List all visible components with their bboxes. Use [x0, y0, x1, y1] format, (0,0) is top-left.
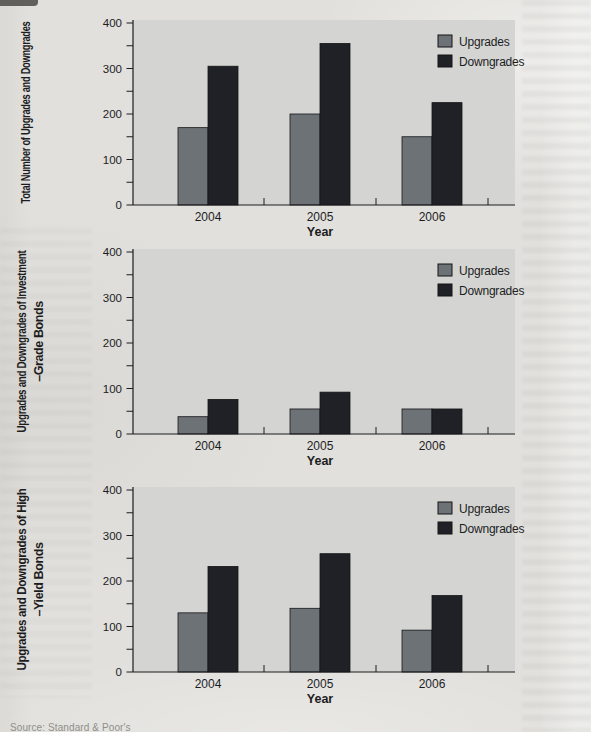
bar-upgrades-2005	[290, 114, 320, 205]
bar-downgrades-2006	[432, 596, 462, 672]
bar-upgrades-2005	[290, 608, 320, 672]
bar-upgrades-2006	[402, 137, 432, 205]
bar-downgrades-2004	[208, 66, 238, 205]
x-tick-label: 2004	[195, 677, 222, 691]
legend-swatch-upgrades	[438, 502, 452, 514]
x-tick-label: 2004	[195, 210, 222, 224]
bar-upgrades-2006	[402, 409, 432, 434]
legend-swatch-downgrades	[438, 522, 452, 534]
bar-upgrades-2004	[178, 417, 208, 434]
x-tick-label: 2004	[195, 439, 222, 453]
x-axis-title: Year	[307, 454, 334, 468]
y-tick-label: 300	[103, 63, 122, 75]
chart-total-upgrades-downgrades: 0100200300400200420052006YearTotal Numbe…	[0, 5, 591, 245]
y-tick-label: 100	[103, 383, 122, 395]
y-axis-title: Upgrades and Downgrades of Investment	[15, 250, 29, 433]
legend-label-upgrades: Upgrades	[459, 35, 510, 49]
y-tick-label: 100	[103, 621, 122, 633]
y-axis-title: Total Number of Upgrades and Downgrades	[19, 21, 33, 203]
y-tick-label: 300	[103, 292, 122, 304]
legend-label-downgrades: Downgrades	[459, 284, 525, 298]
legend-swatch-downgrades	[438, 55, 452, 67]
legend-label-downgrades: Downgrades	[459, 522, 525, 536]
y-tick-label: 400	[103, 17, 122, 29]
bar-downgrades-2004	[208, 566, 238, 672]
bar-downgrades-2005	[320, 554, 350, 672]
legend-label-upgrades: Upgrades	[459, 264, 510, 278]
x-tick-label: 2005	[307, 439, 334, 453]
y-tick-label: 400	[103, 246, 122, 258]
bar-upgrades-2006	[402, 630, 432, 672]
x-tick-label: 2005	[307, 210, 334, 224]
x-tick-label: 2005	[307, 677, 334, 691]
y-tick-label: 300	[103, 530, 122, 542]
bar-downgrades-2004	[208, 399, 238, 434]
y-tick-label: 200	[103, 337, 122, 349]
y-tick-label: 200	[103, 575, 122, 587]
legend-swatch-upgrades	[438, 264, 452, 276]
y-axis-title: –Grade Bonds	[32, 301, 46, 382]
bar-upgrades-2005	[290, 409, 320, 434]
legend-label-upgrades: Upgrades	[459, 502, 510, 516]
source-note: Source: Standard & Poor's	[10, 722, 131, 732]
y-tick-label: 400	[103, 484, 122, 496]
y-tick-label: 200	[103, 108, 122, 120]
chart-investment-grade-bonds: 0100200300400200420052006YearUpgrades an…	[0, 234, 591, 474]
y-axis-title: Upgrades and Downgrades of High	[15, 489, 29, 671]
chart-high-yield-bonds: 0100200300400200420052006YearUpgrades an…	[0, 472, 591, 712]
y-tick-label: 0	[116, 428, 122, 440]
bar-downgrades-2006	[432, 103, 462, 205]
x-axis-title: Year	[307, 692, 334, 706]
y-tick-label: 100	[103, 154, 122, 166]
y-axis-title: –Yield Bonds	[32, 542, 46, 616]
bar-downgrades-2005	[320, 392, 350, 434]
y-tick-label: 0	[116, 199, 122, 211]
x-tick-label: 2006	[419, 677, 446, 691]
y-tick-label: 0	[116, 666, 122, 678]
legend-swatch-downgrades	[438, 284, 452, 296]
bar-downgrades-2006	[432, 409, 462, 434]
legend-label-downgrades: Downgrades	[459, 55, 525, 69]
bar-downgrades-2005	[320, 43, 350, 205]
legend-swatch-upgrades	[438, 35, 452, 47]
scanned-figure-page: 0100200300400200420052006YearTotal Numbe…	[0, 0, 591, 732]
x-tick-label: 2006	[419, 439, 446, 453]
bar-upgrades-2004	[178, 613, 208, 672]
x-tick-label: 2006	[419, 210, 446, 224]
bar-upgrades-2004	[178, 128, 208, 205]
